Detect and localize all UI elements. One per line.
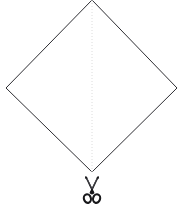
diagram-canvas bbox=[0, 0, 179, 206]
diamond-outline bbox=[6, 0, 177, 172]
diamond-fold-diagram bbox=[0, 0, 179, 206]
scissors-icon bbox=[83, 176, 102, 203]
